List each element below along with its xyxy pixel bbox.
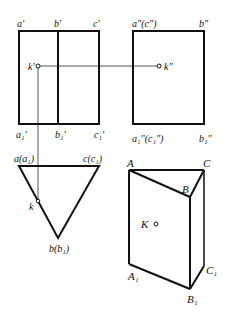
label-c1-prime: c₁' [94,129,105,140]
top-view: a(a₁) c(c₁) k b(b₁) [14,153,103,255]
label-a12-c12: a₁"(c₁") [132,133,164,145]
side-view-outline [133,31,204,124]
label-C1: C₁ [206,264,217,276]
label-a-a1: a(a₁) [14,153,35,165]
label-k2: k" [164,61,173,72]
edge-BC [190,170,204,197]
label-k-prime: k' [28,61,35,72]
label-b2: b" [199,18,209,29]
label-c-prime: c' [93,18,100,29]
label-A: A [126,157,134,169]
label-b-prime: b' [54,18,62,29]
label-A1: A₁ [127,270,139,282]
label-a2-c2: a"(c") [132,18,157,30]
edge-AB [129,170,190,197]
edge-B1C1 [190,266,204,289]
projection-diagram: a' b' c' k' a₁' b₁' c₁' a"(c") b" k" a₁"… [0,0,227,315]
label-C: C [203,157,211,169]
label-B1: B₁ [187,293,198,305]
label-c-c1: c(c₁) [83,153,103,165]
point-k-top [36,199,40,203]
label-a1-prime: a₁' [16,129,27,140]
prism-3d: A C B K A₁ C₁ B₁ [126,157,217,305]
point-K [154,222,158,226]
label-k: k [29,201,34,212]
point-k-front [36,64,40,68]
label-a-prime: a' [17,18,25,29]
front-view: a' b' c' k' a₁' b₁' c₁' [16,18,105,140]
label-b1-prime: b₁' [55,129,66,140]
label-B: B [182,183,189,195]
point-k-side [157,64,161,68]
side-view: a"(c") b" k" a₁"(c₁") b₁" [132,18,212,145]
label-b12: b₁" [199,133,212,144]
label-K: K [140,218,149,230]
label-b-b1: b(b₁) [49,243,70,255]
